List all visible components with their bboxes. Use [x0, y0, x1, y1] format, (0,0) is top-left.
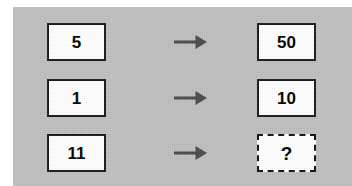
input-value: 1 — [72, 90, 81, 107]
output-value: 10 — [277, 90, 296, 107]
puzzle-row: 5 50 — [13, 22, 352, 62]
arrow-right-icon — [163, 79, 219, 117]
input-box[interactable]: 5 — [47, 23, 106, 61]
puzzle-row: 1 10 — [13, 78, 352, 118]
input-value: 11 — [68, 145, 86, 162]
puzzle-panel: 5 50 1 10 — [13, 7, 352, 186]
output-value: 50 — [277, 34, 296, 51]
output-box[interactable]: 10 — [257, 79, 316, 117]
puzzle-screenshot: 5 50 1 10 — [0, 0, 352, 186]
unknown-output-box[interactable]: ? — [257, 134, 316, 172]
input-box[interactable]: 1 — [47, 79, 106, 117]
arrow-right-icon — [163, 134, 219, 172]
puzzle-row: 11 ? — [13, 133, 352, 173]
input-value: 5 — [72, 34, 81, 51]
unknown-value: ? — [281, 144, 293, 163]
output-box[interactable]: 50 — [257, 23, 316, 61]
input-box[interactable]: 11 — [47, 134, 106, 172]
arrow-right-icon — [163, 23, 219, 61]
